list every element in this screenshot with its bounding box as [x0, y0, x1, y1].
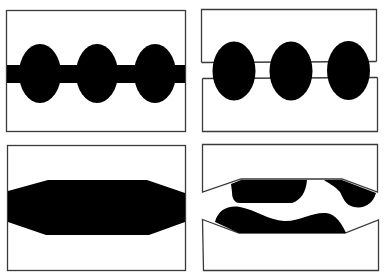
bead-2 — [270, 42, 313, 101]
diagram-canvas — [0, 0, 386, 277]
panel-top-left — [7, 11, 186, 132]
panel-top-right — [202, 10, 378, 132]
diagram-figure — [0, 0, 386, 277]
material-lower — [215, 207, 346, 233]
panel-bottom-right — [203, 145, 379, 271]
bead-3 — [327, 41, 370, 100]
bead-3 — [134, 44, 176, 103]
material-upper-left — [231, 180, 307, 203]
bead-1 — [213, 42, 256, 101]
panel-bottom-left — [8, 146, 186, 271]
bead-2 — [76, 44, 118, 103]
bead-1 — [19, 44, 61, 103]
flattened-billet — [8, 180, 185, 235]
